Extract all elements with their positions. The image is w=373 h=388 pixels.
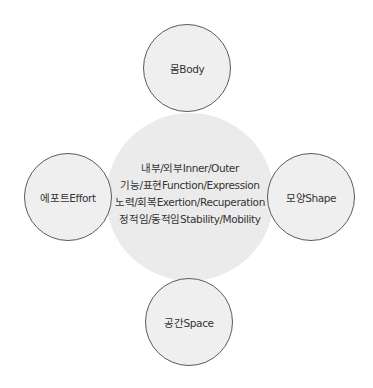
node-shape: 모양Shape <box>267 153 355 241</box>
center-text-block: 내부/외부Inner/Outer 기능/표현Function/Expressio… <box>106 160 274 228</box>
center-line-function-expression: 기능/표현Function/Expression <box>120 177 259 194</box>
node-shape-label: 모양Shape <box>286 190 336 205</box>
center-line-exertion-recuperation: 노력/회복Exertion/Recuperation <box>115 194 265 211</box>
node-space-label: 공간Space <box>164 315 213 330</box>
node-body-label: 몸Body <box>170 61 205 76</box>
node-space: 공간Space <box>145 278 233 366</box>
diagram-canvas: 내부/외부Inner/Outer 기능/표현Function/Expressio… <box>0 0 373 388</box>
node-body: 몸Body <box>143 24 231 112</box>
node-effort: 에포트Effort <box>24 153 112 241</box>
center-line-stability-mobility: 정적임/동적임Stability/Mobility <box>119 211 260 228</box>
center-line-inner-outer: 내부/외부Inner/Outer <box>141 160 239 177</box>
node-effort-label: 에포트Effort <box>40 190 95 205</box>
